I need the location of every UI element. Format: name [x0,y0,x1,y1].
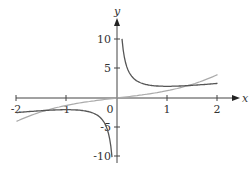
y-tick-label: 5 [104,62,111,75]
y-axis-arrow-icon [114,18,120,26]
y-tick-label: 10 [97,33,111,46]
y-axis-label: y [113,5,121,18]
x-axis-arrow-icon [232,95,240,101]
x-tick-label: 1 [164,103,171,116]
x-tick-label: 2 [214,103,221,116]
x-axis-label: x [242,92,249,105]
origin-label: 0 [107,103,114,116]
dark-curve-right-branch [122,39,218,86]
x-tick-label: -2 [11,103,22,116]
y-tick-label: -5 [100,121,111,134]
chart-canvas: -2 -1 0 1 2 10 5 -5 -10 x y [0,0,252,169]
y-tick-label: -10 [93,150,111,163]
